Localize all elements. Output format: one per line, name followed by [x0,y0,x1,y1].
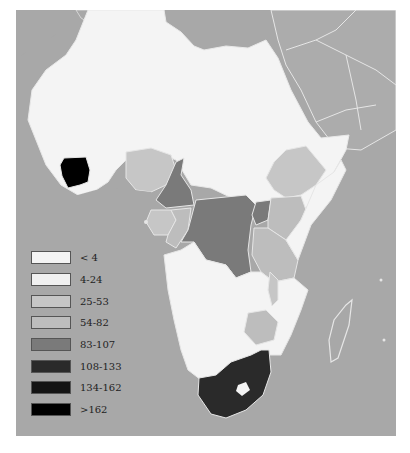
legend-swatch [31,381,71,394]
choropleth-map: < 4 4-24 25-53 54-82 83-107 108-133 134-… [16,10,396,436]
legend-label: >162 [80,404,107,415]
legend-label: 54-82 [80,317,109,328]
legend-swatch [31,338,71,351]
legend-item: 108-133 [31,355,122,377]
legend-label: < 4 [80,252,98,263]
legend-swatch [31,273,71,286]
legend-label: 108-133 [80,361,122,372]
map-legend: < 4 4-24 25-53 54-82 83-107 108-133 134-… [31,247,122,421]
legend-item: >162 [31,399,122,421]
legend-item: 25-53 [31,290,122,312]
legend-label: 83-107 [80,339,115,350]
region-madagascar [329,300,352,362]
legend-label: 25-53 [80,296,109,307]
legend-swatch [31,251,71,264]
legend-swatch [31,360,71,373]
legend-item: 83-107 [31,334,122,356]
legend-item: < 4 [31,247,122,269]
legend-swatch [31,295,71,308]
legend-item: 54-82 [31,312,122,334]
legend-swatch [31,403,71,416]
legend-item: 4-24 [31,269,122,291]
legend-item: 134-162 [31,377,122,399]
legend-swatch [31,316,71,329]
island-seychelles [380,279,383,282]
legend-label: 4-24 [80,274,102,285]
island-bioko [144,220,148,224]
island-mauritius [383,339,386,342]
legend-label: 134-162 [80,382,122,393]
